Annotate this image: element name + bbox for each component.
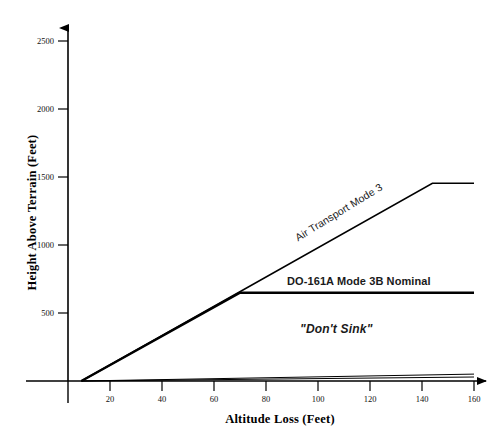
x-tick-label-40: 40	[147, 394, 177, 404]
x-tick-label-100: 100	[303, 394, 333, 404]
x-axis-ticks	[110, 381, 474, 391]
x-tick-label-20: 20	[95, 394, 125, 404]
x-axis-title: Altitude Loss (Feet)	[140, 412, 420, 427]
chart-figure: 2500 2000 1500 1000 500 20 40 60 80 100 …	[0, 0, 503, 444]
y-axis-title: Height Above Terrain (Feet)	[25, 103, 40, 323]
x-tick-label-80: 80	[251, 394, 281, 404]
x-tick-label-120: 120	[355, 394, 385, 404]
series-do-161a-mode-3b-nominal	[81, 293, 474, 381]
x-tick-label-160: 160	[459, 394, 489, 404]
y-tick-label-2500: 2500	[20, 36, 54, 46]
x-tick-label-60: 60	[199, 394, 229, 404]
y-axis-ticks	[58, 41, 68, 313]
x-tick-label-140: 140	[407, 394, 437, 404]
annotation-dont-sink: "Don't Sink"	[300, 322, 373, 336]
annotation-do-161a-mode-3b-nominal: DO-161A Mode 3B Nominal	[287, 275, 431, 287]
plot-area	[0, 0, 503, 444]
